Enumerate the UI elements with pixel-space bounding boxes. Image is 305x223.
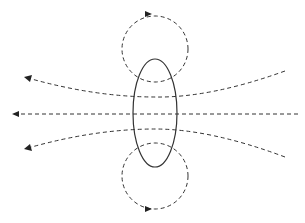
bottom-loop-arrow-icon xyxy=(145,206,152,212)
bottom-circulation-loop xyxy=(122,143,188,209)
top-circulation-loop xyxy=(122,16,188,82)
upper-field-arrow-icon xyxy=(24,75,32,82)
top-loop-arrow-icon xyxy=(145,11,152,17)
current-loop xyxy=(133,59,177,167)
lower-field-arrow-icon xyxy=(24,144,32,151)
center-field-arrow-icon xyxy=(12,111,19,117)
field-diagram xyxy=(0,0,305,223)
upper-field-line xyxy=(28,71,285,97)
